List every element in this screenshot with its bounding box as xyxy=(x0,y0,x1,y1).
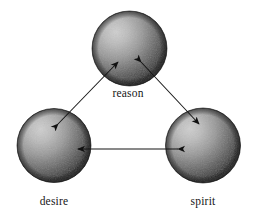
node-reason-sphere[interactable] xyxy=(92,11,167,86)
node-label-spirit: spirit xyxy=(191,196,216,208)
node-label-desire: desire xyxy=(40,196,69,208)
tripartite-soul-diagram xyxy=(0,0,254,214)
diagram-canvas: reason desire spirit xyxy=(0,0,254,214)
edge-reason-spirit xyxy=(141,62,199,124)
edge-desire-reason xyxy=(58,62,118,124)
node-label-reason: reason xyxy=(112,88,143,100)
node-spirit-sphere[interactable] xyxy=(166,108,241,183)
node-desire-sphere[interactable] xyxy=(17,109,91,183)
